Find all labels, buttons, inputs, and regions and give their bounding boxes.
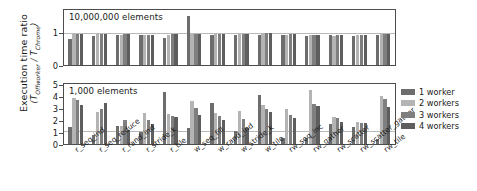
y-tick-mark [59,121,63,122]
bar [309,35,312,65]
bar [194,34,197,65]
bar [92,36,95,65]
bar [340,35,343,65]
bar [163,38,166,65]
bar [127,34,130,65]
bar [139,35,142,65]
bar [281,35,284,65]
legend-item: 4 workers [401,121,475,133]
bar-group [229,10,253,65]
bar [383,34,386,65]
bar [387,34,390,65]
bar [167,35,170,65]
bar [116,35,119,65]
y-tick-mark [59,66,63,67]
bar [76,100,79,144]
bar [171,34,174,65]
bar [218,34,221,65]
legend-item: 1 worker [401,86,475,98]
legend: 1 worker2 workers3 workers4 workers [401,86,475,132]
y-tick-mark [59,145,63,146]
legend-label: 1 worker [419,87,455,97]
y-tick-label: 0 [36,61,58,71]
bar [312,35,315,65]
bar-group [324,10,348,65]
bar [380,34,383,65]
bar [352,36,355,65]
bar [245,34,248,65]
y-tick-label: 0 [36,140,58,150]
legend-swatch [401,100,415,106]
bar-group [182,10,206,65]
bar [72,98,75,144]
panel-title-10m: 10,000,000 elements [69,12,163,22]
bar [100,34,103,65]
bar [190,34,193,65]
bar [214,34,217,65]
bar [120,35,123,65]
y-tick-mark [59,109,63,110]
x-axis-labels: r_seq_indr_seq_reducer_rand_indr_stride_… [63,147,396,191]
bar-group [348,10,372,65]
y-tick-mark [59,85,63,86]
bar [258,35,261,65]
legend-swatch [401,123,415,129]
legend-item: 2 workers [401,98,475,110]
bar [174,34,177,65]
bar [147,35,150,65]
bar [289,115,292,144]
bar-group [253,10,277,65]
bar [305,36,308,65]
bar [265,33,268,65]
legend-item: 3 workers [401,109,475,121]
bar [198,34,201,65]
legend-label: 2 workers [419,98,459,108]
bar [285,109,288,144]
y-tick-label: 5 [36,80,58,90]
bar [293,34,296,65]
bar [360,35,363,65]
bar [234,35,237,65]
y-tick-label: 3 [36,104,58,114]
bar [68,39,71,65]
bar [194,108,197,144]
y-tick-label: 1 [36,128,58,138]
panel-10m-elements: 10,000,000 elements [63,9,396,66]
panel-title-1k: 1,000 elements [69,86,138,96]
bar [96,34,99,65]
bar [329,35,332,65]
bar [151,35,154,65]
bar [72,34,75,65]
bar-group [371,10,395,65]
y-tick-label: 1 [36,28,58,38]
bar [285,35,288,65]
bar [261,33,264,65]
bar [190,101,193,144]
y-tick-mark [59,33,63,34]
y-tick-mark [59,97,63,98]
bar [376,35,379,65]
bar [242,34,245,65]
bar [332,36,335,65]
bar [269,33,272,65]
legend-swatch [401,112,415,118]
y-axis-label-line1: Execution time ratio [18,14,29,112]
bar [143,35,146,65]
bar-group [206,10,230,65]
legend-swatch [401,89,415,95]
bar [356,35,359,65]
bar [76,34,79,65]
figure: Execution time ratio (TOffworker / TChro… [0,0,477,191]
bar [222,34,225,65]
bar [238,34,241,65]
legend-label: 4 workers [419,121,459,131]
y-tick-label: 2 [36,116,58,126]
bar [210,35,213,65]
bar [289,34,292,65]
bar [187,16,190,65]
bar [316,35,319,65]
bar [104,34,107,65]
y-tick-label: 4 [36,92,58,102]
bar [80,34,83,65]
bar [68,127,71,144]
